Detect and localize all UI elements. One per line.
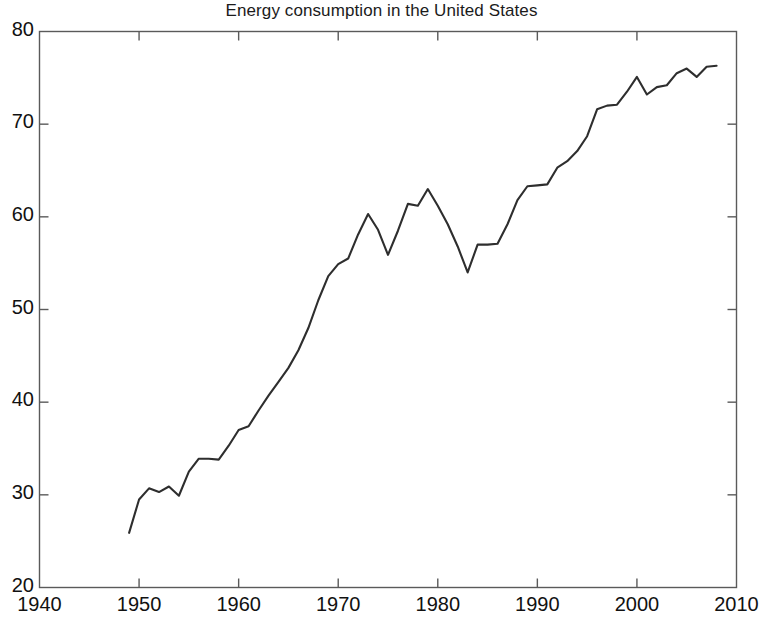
y-axis-ticks bbox=[40, 124, 737, 495]
x-axis-tick-label: 1970 bbox=[308, 593, 368, 616]
axes-border bbox=[40, 32, 737, 588]
x-axis-tick-label: 1940 bbox=[10, 593, 70, 616]
y-axis-tick-label: 60 bbox=[0, 203, 34, 226]
x-axis-tick-label: 1990 bbox=[507, 593, 567, 616]
y-axis-tick-label: 70 bbox=[0, 110, 34, 133]
y-axis-tick-label: 40 bbox=[0, 388, 34, 411]
axes-frame bbox=[40, 32, 737, 588]
plot-area bbox=[0, 0, 763, 638]
y-axis-tick-label: 30 bbox=[0, 481, 34, 504]
x-axis-tick-label: 1980 bbox=[408, 593, 468, 616]
x-axis-tick-label: 1950 bbox=[109, 593, 169, 616]
x-axis-tick-label: 2010 bbox=[707, 593, 763, 616]
y-axis-tick-label: 50 bbox=[0, 296, 34, 319]
x-axis-ticks bbox=[139, 32, 637, 588]
chart-figure: Energy consumption in the United States … bbox=[0, 0, 763, 638]
data-series-line bbox=[129, 66, 716, 533]
x-axis-tick-label: 2000 bbox=[607, 593, 667, 616]
x-axis-tick-label: 1960 bbox=[209, 593, 269, 616]
y-axis-tick-label: 80 bbox=[0, 18, 34, 41]
